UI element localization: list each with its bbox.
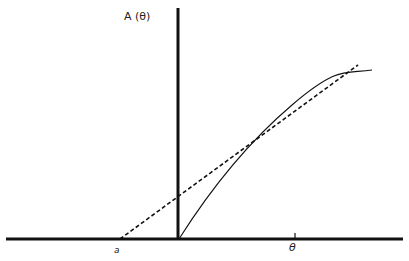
tangent-line [120,65,358,239]
theta-label: θ [289,241,296,254]
a-theta-curve [179,70,372,239]
y-axis-label: A (θ) [124,10,150,23]
diagram-canvas: A (θ) a θ [0,0,409,261]
a-label: a [114,245,120,255]
